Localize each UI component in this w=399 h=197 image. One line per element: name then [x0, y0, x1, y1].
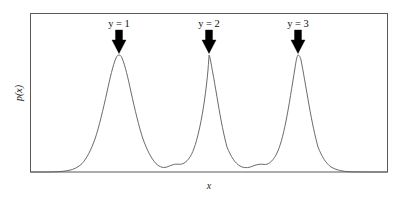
annotation-label-3: y = 3	[287, 18, 309, 29]
y-axis-label: p(x)	[13, 84, 25, 102]
annotation-label-2: y = 2	[198, 18, 220, 29]
figure-container: y = 1 y = 2 y = 3 p(x) x	[0, 0, 399, 197]
x-axis-label: x	[206, 180, 212, 191]
density-plot: y = 1 y = 2 y = 3 p(x) x	[0, 0, 399, 197]
annotation-label-1: y = 1	[108, 18, 130, 29]
